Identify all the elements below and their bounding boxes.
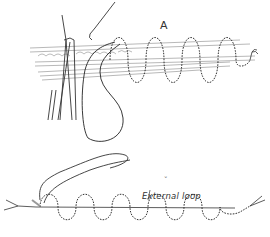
panel-label-b: ˘ bbox=[164, 176, 168, 184]
illustration-drawing bbox=[0, 0, 270, 237]
thread-end-b-right bbox=[250, 196, 265, 206]
external-loop-thread bbox=[40, 154, 130, 203]
external-loop-label: External loop bbox=[142, 191, 201, 201]
thread-end-b-left bbox=[4, 200, 36, 210]
skin-line-b bbox=[36, 207, 235, 208]
suture-illustration: A ˘ External loop bbox=[0, 0, 270, 237]
knot bbox=[32, 200, 40, 206]
forceps bbox=[48, 15, 76, 120]
needle bbox=[89, 2, 115, 40]
thread-loop bbox=[82, 42, 123, 141]
thread-end-a bbox=[250, 49, 258, 60]
panel-label-a: A bbox=[160, 19, 168, 32]
